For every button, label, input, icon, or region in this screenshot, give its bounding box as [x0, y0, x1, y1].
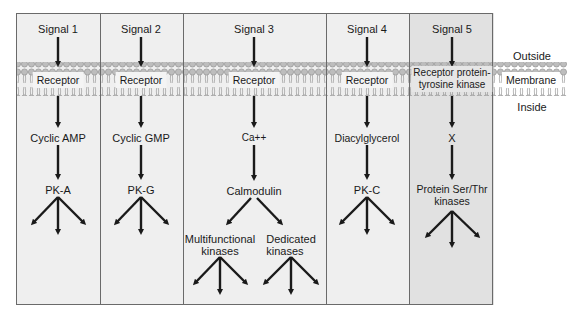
signal-5-label: Signal 5 [432, 23, 472, 35]
pathway-arrows [0, 0, 572, 322]
receptor-tyrosine-kinase-label: Receptor protein- tyrosine kinase [411, 66, 492, 92]
second-messenger-cyclic-amp: Cyclic AMP [30, 132, 86, 144]
receptor-tyrosine-kinase-line1: Receptor protein- [413, 67, 490, 79]
second-messenger-diacylglycerol: Diacylglycerol [335, 132, 400, 144]
multifunctional-kinases-label: Multifunctional kinases [185, 233, 255, 257]
multifunctional-kinases-line2: kinases [185, 245, 255, 257]
kinase-pk-g: PK-G [128, 184, 155, 196]
signal-2-label: Signal 2 [121, 23, 161, 35]
second-messenger-calcium: Ca++ [242, 132, 266, 144]
dedicated-kinases-line2: kinases [266, 245, 316, 257]
membrane-label: Membrane [502, 72, 560, 88]
inside-label: Inside [517, 101, 546, 113]
dedicated-kinases-line1: Dedicated [266, 233, 316, 245]
receptor-4-label: Receptor [342, 72, 393, 88]
signal-3-label: Signal 3 [234, 23, 274, 35]
dedicated-kinases-label: Dedicated kinases [266, 233, 316, 257]
outside-label: Outside [513, 50, 551, 62]
receptor-3-label: Receptor [229, 72, 280, 88]
kinase-pk-a: PK-A [45, 184, 71, 196]
receptor-1-label: Receptor [33, 72, 84, 88]
protein-ser-thr-kinases-label: Protein Ser/Thr kinases [416, 183, 487, 207]
second-messenger-x: X [448, 132, 455, 144]
protein-ser-thr-kinases-line2: kinases [416, 195, 487, 207]
second-messenger-cyclic-gmp: Cyclic GMP [112, 132, 169, 144]
protein-ser-thr-kinases-line1: Protein Ser/Thr [416, 183, 487, 195]
receptor-tyrosine-kinase-line2: tyrosine kinase [413, 79, 490, 91]
receptor-2-label: Receptor [116, 72, 167, 88]
signal-4-label: Signal 4 [347, 23, 387, 35]
kinase-pk-c: PK-C [354, 184, 380, 196]
signal-1-label: Signal 1 [38, 23, 78, 35]
mediator-calmodulin: Calmodulin [226, 185, 281, 197]
multifunctional-kinases-line1: Multifunctional [185, 233, 255, 245]
